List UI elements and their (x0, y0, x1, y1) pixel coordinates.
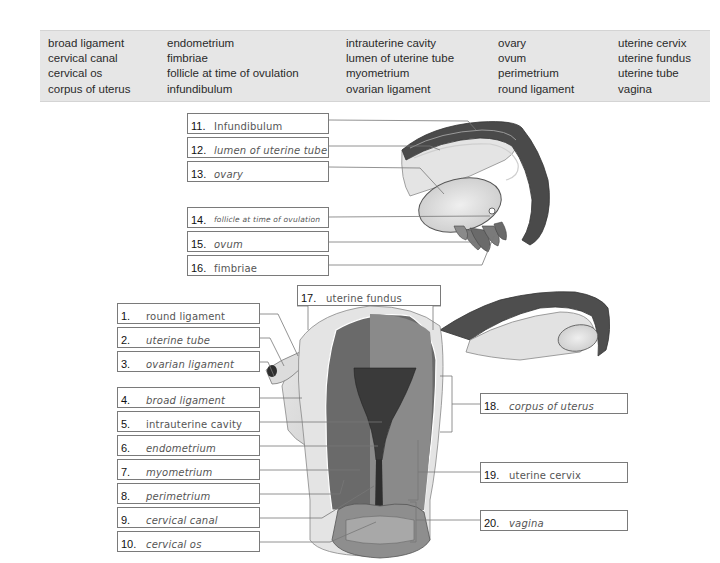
label-number: 16. (191, 262, 206, 274)
label-box-17[interactable]: 17. uterine fundus (297, 285, 441, 306)
label-answer: intrauterine cavity (146, 419, 242, 430)
label-box-4[interactable]: 4. broad ligament (117, 387, 260, 408)
label-number: 8. (121, 490, 130, 502)
label-answer: myometrium (146, 467, 213, 478)
label-number: 1. (121, 310, 130, 322)
top-figure-ovary-tube (329, 120, 549, 265)
label-answer: uterine cervix (509, 470, 581, 481)
label-box-14[interactable]: 14. follicle at time of ovulation (187, 207, 329, 228)
label-box-5[interactable]: 5. intrauterine cavity (117, 411, 260, 432)
label-answer: fimbriae (214, 263, 257, 274)
label-answer: vagina (509, 518, 544, 529)
label-number: 20. (484, 517, 499, 529)
label-number: 13. (191, 168, 206, 180)
label-number: 10. (121, 538, 136, 550)
label-box-12[interactable]: 12. lumen of uterine tube (187, 137, 329, 158)
label-answer: perimetrium (146, 491, 210, 502)
label-box-8[interactable]: 8. perimetrium (117, 483, 260, 504)
label-box-1[interactable]: 1. round ligament (117, 303, 260, 324)
label-box-11[interactable]: 11. Infundibulum (187, 113, 329, 134)
label-box-9[interactable]: 9. cervical canal (117, 507, 260, 528)
label-answer: Infundibulum (214, 121, 283, 132)
label-number: 5. (121, 418, 130, 430)
label-answer: broad ligament (146, 395, 225, 406)
label-answer: uterine fundus (326, 293, 402, 304)
label-number: 19. (484, 469, 499, 481)
label-box-16[interactable]: 16. fimbriae (187, 255, 329, 276)
label-answer: lumen of uterine tube (214, 145, 327, 156)
label-number: 3. (121, 358, 130, 370)
label-number: 14. (191, 214, 206, 226)
label-number: 18. (484, 400, 499, 412)
label-number: 12. (191, 144, 206, 156)
label-answer: ovarian ligament (146, 359, 234, 370)
label-answer: round ligament (146, 311, 225, 322)
label-answer: endometrium (146, 443, 216, 454)
label-number: 2. (121, 334, 130, 346)
label-answer: corpus of uterus (509, 401, 594, 412)
label-number: 7. (121, 466, 130, 478)
label-box-6[interactable]: 6. endometrium (117, 435, 260, 456)
label-answer: ovum (214, 239, 243, 250)
label-box-3[interactable]: 3. ovarian ligament (117, 351, 260, 372)
label-number: 4. (121, 394, 130, 406)
label-answer: follicle at time of ovulation (214, 215, 320, 224)
label-number: 11. (191, 120, 205, 132)
label-answer: uterine tube (146, 335, 210, 346)
label-answer: cervical os (146, 539, 202, 550)
label-box-15[interactable]: 15. ovum (187, 231, 329, 252)
label-box-13[interactable]: 13. ovary (187, 161, 329, 182)
label-box-10[interactable]: 10. cervical os (117, 531, 260, 552)
label-number: 9. (121, 514, 130, 526)
label-number: 6. (121, 442, 130, 454)
label-box-18[interactable]: 18. corpus of uterus (480, 393, 628, 414)
label-box-2[interactable]: 2. uterine tube (117, 327, 260, 348)
label-number: 17. (301, 292, 316, 304)
label-answer: ovary (214, 169, 243, 180)
label-box-7[interactable]: 7. myometrium (117, 459, 260, 480)
label-number: 15. (191, 238, 206, 250)
label-answer: cervical canal (146, 515, 218, 526)
label-box-20[interactable]: 20. vagina (480, 510, 628, 531)
label-box-19[interactable]: 19. uterine cervix (480, 462, 628, 483)
